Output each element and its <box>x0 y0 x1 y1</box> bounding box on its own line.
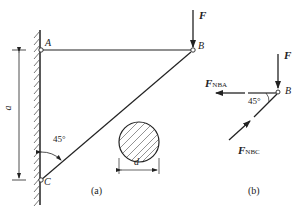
label-force-f-b: F <box>284 50 291 61</box>
caption-a: (a) <box>91 186 102 196</box>
label-point-c: C <box>44 177 51 187</box>
force-nbc-sub: NBC <box>245 148 259 156</box>
label-force-f-a: F <box>199 10 206 21</box>
label-angle-b: 45° <box>248 97 261 106</box>
label-dimension-a: a <box>3 106 13 111</box>
label-angle-a: 45° <box>53 135 66 144</box>
cross-section <box>110 110 174 174</box>
label-force-nba: FNBA <box>205 78 227 89</box>
bar-cb <box>41 52 191 180</box>
pin-c <box>39 178 43 182</box>
label-point-a: A <box>45 38 51 48</box>
pin-a <box>39 48 43 52</box>
dimension-a <box>12 50 26 180</box>
label-point-b: B <box>198 41 204 51</box>
label-dimension-d: d <box>134 157 139 167</box>
label-point-b-b: B <box>285 86 291 96</box>
force-nba-sub: NBA <box>212 81 227 89</box>
pin-b <box>191 48 195 52</box>
caption-b: (b) <box>248 186 260 196</box>
label-force-nbc: FNBC <box>238 145 260 156</box>
angle-arc-a <box>41 152 61 160</box>
